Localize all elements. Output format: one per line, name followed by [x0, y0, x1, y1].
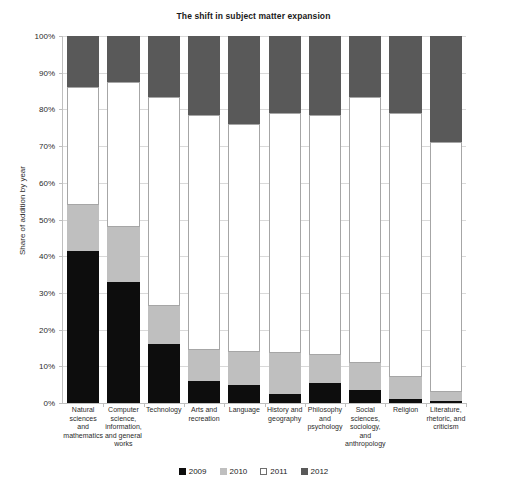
bar-segment-2011[interactable] — [148, 97, 180, 306]
x-axis-category-labels: Natural sciences and mathematicsComputer… — [63, 406, 466, 462]
bar-segment-2010[interactable] — [148, 306, 180, 345]
bar-segment-2009[interactable] — [148, 344, 180, 403]
bar-stack[interactable] — [309, 36, 341, 403]
bar-segment-2012[interactable] — [309, 36, 341, 115]
legend-swatch-icon — [220, 468, 227, 475]
bar-segment-2012[interactable] — [430, 36, 462, 142]
legend-label: 2011 — [270, 467, 287, 476]
x-category-label: Arts and recreation — [184, 406, 224, 423]
legend-item[interactable]: 2011 — [260, 467, 287, 476]
bar-stack[interactable] — [67, 36, 99, 403]
bar-segment-2009[interactable] — [228, 385, 260, 403]
y-tick-label: 50% — [39, 215, 55, 224]
x-category-label: History and geography — [265, 406, 305, 423]
y-tick-label: 20% — [39, 325, 55, 334]
plot-area — [63, 36, 466, 403]
bar-segment-2012[interactable] — [148, 36, 180, 97]
legend-swatch-icon — [301, 468, 308, 475]
bar-segment-2012[interactable] — [188, 36, 220, 115]
bar-segment-2011[interactable] — [389, 113, 421, 377]
chart-title: The shift in subject matter expansion — [0, 11, 507, 21]
y-tick-label: 40% — [39, 252, 55, 261]
bar-segment-2012[interactable] — [228, 36, 260, 124]
bar-segment-2011[interactable] — [228, 124, 260, 352]
legend-item[interactable]: 2010 — [220, 467, 248, 476]
legend-swatch-icon — [260, 468, 267, 475]
bar-stack[interactable] — [228, 36, 260, 403]
bar-segment-2009[interactable] — [349, 390, 381, 403]
bar-segment-2012[interactable] — [107, 36, 139, 82]
legend-item[interactable]: 2009 — [179, 467, 207, 476]
x-category-label: Religion — [385, 406, 425, 415]
y-tick-label: 70% — [39, 142, 55, 151]
bar-segment-2010[interactable] — [67, 205, 99, 251]
bar-segment-2010[interactable] — [389, 377, 421, 399]
x-category-label: Natural sciences and mathematics — [63, 406, 103, 440]
bar-segment-2009[interactable] — [269, 394, 301, 403]
bar-segment-2011[interactable] — [269, 113, 301, 353]
bar-segment-2012[interactable] — [389, 36, 421, 113]
y-tick-label: 100% — [35, 32, 55, 41]
bar-segment-2010[interactable] — [107, 227, 139, 282]
bar-segment-2011[interactable] — [188, 115, 220, 350]
bar-segment-2009[interactable] — [188, 381, 220, 403]
bar-stack[interactable] — [107, 36, 139, 403]
legend-label: 2009 — [189, 467, 207, 476]
bar-segment-2009[interactable] — [67, 251, 99, 403]
bar-segment-2011[interactable] — [430, 142, 462, 392]
bar-stack[interactable] — [389, 36, 421, 403]
x-category-label: Literature, rhetoric, and criticism — [426, 406, 466, 432]
bar-segment-2011[interactable] — [67, 87, 99, 204]
x-category-label: Language — [224, 406, 264, 415]
bar-segment-2009[interactable] — [430, 401, 462, 403]
legend-swatch-icon — [179, 468, 186, 475]
bar-segment-2010[interactable] — [188, 350, 220, 381]
y-axis-tick-labels: 0%10%20%30%40%50%60%70%80%90%100% — [0, 36, 58, 403]
bar-segment-2009[interactable] — [389, 399, 421, 403]
y-tick-label: 10% — [39, 362, 55, 371]
x-category-label: Philosophy and psychology — [305, 406, 345, 432]
legend-label: 2010 — [230, 467, 248, 476]
bar-segment-2009[interactable] — [107, 282, 139, 403]
x-category-label: Social sciences, sociology, and anthropo… — [345, 406, 385, 449]
bar-segment-2010[interactable] — [309, 355, 341, 383]
y-tick-label: 60% — [39, 178, 55, 187]
bar-stack[interactable] — [188, 36, 220, 403]
bar-stack[interactable] — [148, 36, 180, 403]
bar-segment-2010[interactable] — [269, 353, 301, 393]
legend-label: 2012 — [311, 467, 329, 476]
y-axis-tick — [59, 403, 63, 404]
bar-segment-2012[interactable] — [349, 36, 381, 97]
y-tick-label: 0% — [43, 399, 55, 408]
bar-segment-2011[interactable] — [349, 97, 381, 363]
bar-segment-2010[interactable] — [349, 363, 381, 391]
bar-stack[interactable] — [430, 36, 462, 403]
bar-series-container — [63, 36, 466, 403]
bar-segment-2010[interactable] — [430, 392, 462, 401]
bar-stack[interactable] — [349, 36, 381, 403]
bar-segment-2012[interactable] — [269, 36, 301, 113]
y-tick-label: 80% — [39, 105, 55, 114]
legend-item[interactable]: 2012 — [301, 467, 329, 476]
bar-stack[interactable] — [269, 36, 301, 403]
y-tick-label: 90% — [39, 68, 55, 77]
x-category-label: Technology — [144, 406, 184, 415]
y-tick-label: 30% — [39, 288, 55, 297]
x-axis-tick — [466, 403, 467, 407]
bar-segment-2011[interactable] — [107, 82, 139, 227]
bar-segment-2011[interactable] — [309, 115, 341, 355]
chart-legend: 2009201020112012 — [0, 467, 507, 476]
bar-segment-2009[interactable] — [309, 383, 341, 403]
bar-segment-2012[interactable] — [67, 36, 99, 87]
stacked-bar-chart: The shift in subject matter expansion Sh… — [0, 0, 507, 494]
bar-segment-2010[interactable] — [228, 352, 260, 385]
x-category-label: Computer science, information, and gener… — [103, 406, 143, 449]
